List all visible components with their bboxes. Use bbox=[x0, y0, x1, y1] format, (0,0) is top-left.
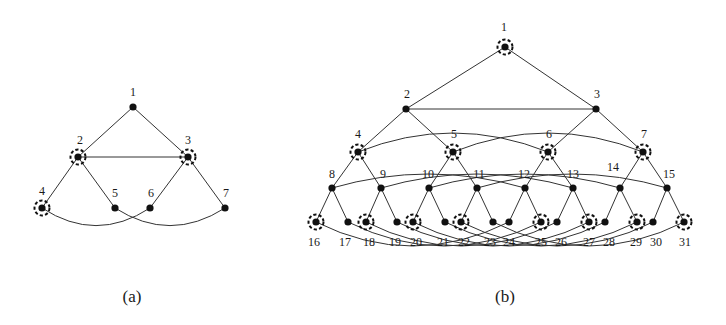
node-31: 31 bbox=[677, 215, 692, 250]
node-dot-icon bbox=[362, 218, 369, 225]
edge-1-3 bbox=[133, 107, 188, 157]
edge-1-3 bbox=[505, 47, 596, 109]
node-label: 10 bbox=[422, 167, 434, 181]
node-label: 7 bbox=[223, 186, 229, 200]
node-label: 26 bbox=[555, 235, 567, 249]
node-dot-icon bbox=[457, 218, 464, 225]
edge-2-5 bbox=[406, 109, 453, 152]
edge-8-16 bbox=[316, 188, 332, 222]
node-label: 25 bbox=[535, 235, 547, 249]
node-label: 11 bbox=[473, 167, 485, 181]
node-dot-icon bbox=[393, 218, 400, 225]
node-label: 23 bbox=[484, 235, 496, 249]
node-label: 13 bbox=[567, 167, 579, 181]
node-label: 4 bbox=[39, 184, 45, 198]
node-dot-icon bbox=[425, 184, 432, 191]
edge-2-4 bbox=[358, 109, 406, 152]
node-dot-icon bbox=[649, 218, 656, 225]
node-19: 19 bbox=[389, 218, 401, 249]
node-7: 7 bbox=[636, 127, 651, 160]
node-dot-icon bbox=[449, 148, 456, 155]
node-label: 19 bbox=[389, 235, 401, 249]
node-6: 6 bbox=[146, 186, 154, 212]
edge-1-2 bbox=[78, 107, 133, 157]
node-dot-icon bbox=[553, 218, 560, 225]
edge-9-19 bbox=[381, 188, 397, 222]
node-18: 18 bbox=[359, 215, 376, 250]
node-dot-icon bbox=[473, 184, 480, 191]
edge-3-6 bbox=[548, 109, 596, 152]
node-dot-icon bbox=[354, 148, 361, 155]
node-dot-icon bbox=[537, 218, 544, 225]
node-10: 10 bbox=[422, 167, 434, 192]
node-label: 14 bbox=[607, 160, 619, 174]
panel-b-graph: 1234567891011121314151617181920212223242… bbox=[308, 20, 692, 306]
node-dot-icon bbox=[377, 184, 384, 191]
node-dot-icon bbox=[402, 105, 409, 112]
panel-b-edges bbox=[316, 47, 684, 222]
node-dot-icon bbox=[601, 218, 608, 225]
node-dot-icon bbox=[441, 218, 448, 225]
node-17: 17 bbox=[339, 218, 352, 249]
node-label: 31 bbox=[679, 235, 691, 249]
node-16: 16 bbox=[308, 215, 324, 250]
node-label: 9 bbox=[380, 167, 386, 181]
edge-11-23 bbox=[477, 188, 493, 222]
node-dot-icon bbox=[592, 105, 599, 112]
node-dot-icon bbox=[616, 184, 623, 191]
arc-5-7 bbox=[115, 208, 225, 226]
node-5: 5 bbox=[446, 127, 461, 160]
node-label: 24 bbox=[503, 235, 515, 249]
node-label: 17 bbox=[339, 235, 351, 249]
node-28: 28 bbox=[601, 218, 615, 249]
node-label: 18 bbox=[363, 235, 375, 249]
node-dot-icon bbox=[38, 204, 45, 211]
node-label: 2 bbox=[404, 87, 410, 101]
edge-3-6 bbox=[150, 157, 188, 208]
node-12: 12 bbox=[518, 167, 530, 192]
edge-14-28 bbox=[605, 188, 620, 222]
node-label: 8 bbox=[329, 167, 335, 181]
node-label: 1 bbox=[130, 85, 136, 99]
node-label: 5 bbox=[451, 127, 457, 141]
node-dot-icon bbox=[501, 43, 508, 50]
node-dot-icon bbox=[633, 218, 640, 225]
panel-b-nodes: 1234567891011121314151617181920212223242… bbox=[308, 20, 692, 249]
panel-b-arcs bbox=[316, 133, 684, 246]
node-dot-icon bbox=[680, 218, 687, 225]
edge-8-17 bbox=[332, 188, 348, 222]
edge-10-20 bbox=[413, 188, 429, 222]
edge-2-4 bbox=[42, 157, 78, 208]
node-label: 30 bbox=[650, 235, 662, 249]
node-label: 3 bbox=[185, 133, 191, 147]
edge-12-25 bbox=[525, 188, 541, 222]
node-label: 6 bbox=[546, 127, 552, 141]
node-7: 7 bbox=[221, 186, 229, 212]
node-dot-icon bbox=[663, 184, 670, 191]
node-11: 11 bbox=[473, 167, 485, 192]
node-2: 2 bbox=[71, 133, 86, 165]
arc-4-6 bbox=[42, 208, 150, 226]
node-1: 1 bbox=[129, 85, 136, 111]
node-6: 6 bbox=[541, 127, 556, 160]
node-label: 16 bbox=[308, 235, 320, 249]
node-label: 3 bbox=[594, 87, 600, 101]
edge-7-14 bbox=[620, 152, 643, 188]
node-label: 6 bbox=[148, 186, 154, 200]
node-dot-icon bbox=[146, 204, 153, 211]
node-label: 2 bbox=[77, 133, 83, 147]
node-label: 20 bbox=[410, 235, 422, 249]
node-label: 15 bbox=[663, 167, 675, 181]
node-dot-icon bbox=[544, 148, 551, 155]
node-3: 3 bbox=[181, 133, 196, 165]
node-dot-icon bbox=[74, 153, 81, 160]
node-dot-icon bbox=[521, 184, 528, 191]
edge-14-29 bbox=[620, 188, 637, 222]
edge-10-21 bbox=[429, 188, 445, 222]
node-dot-icon bbox=[221, 204, 228, 211]
node-1: 1 bbox=[498, 20, 513, 55]
node-8: 8 bbox=[328, 167, 335, 192]
node-13: 13 bbox=[567, 167, 579, 192]
node-dot-icon bbox=[111, 204, 118, 211]
edge-4-9 bbox=[358, 152, 381, 188]
